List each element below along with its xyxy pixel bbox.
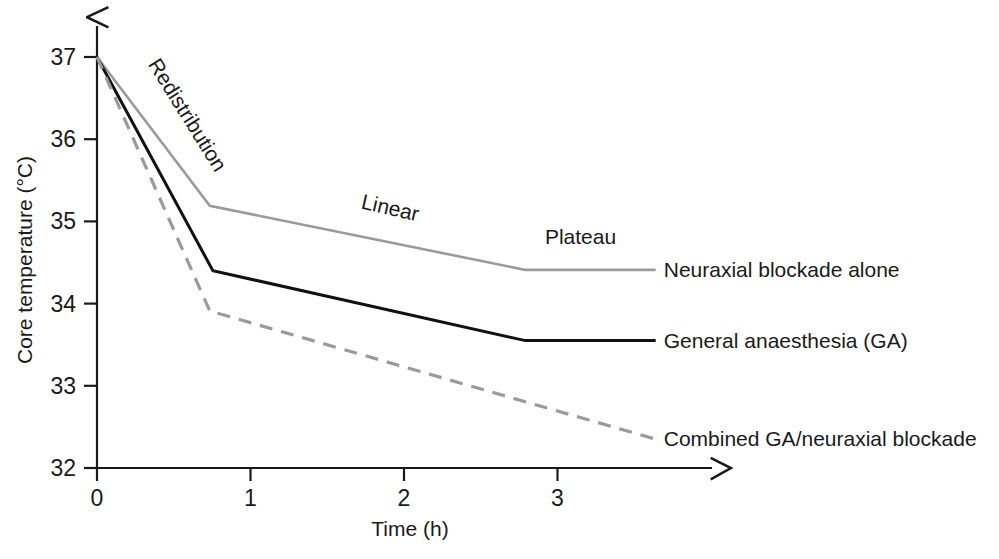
- y-tick-label-36: 36: [50, 126, 76, 152]
- y-tick-label-37: 37: [50, 44, 76, 70]
- y-tick-label-32: 32: [50, 455, 76, 481]
- series-label-neuraxial-blockade-alone: Neuraxial blockade alone: [664, 258, 900, 281]
- axes-group: [97, 26, 712, 468]
- y-tick-label-35: 35: [50, 208, 76, 234]
- annotation-plateau: Plateau: [545, 225, 616, 248]
- series-label-combined-ga-neuraxial-blockade: Combined GA/neuraxial blockade: [664, 427, 977, 450]
- x-axis-ticks: 0123: [91, 468, 564, 511]
- chart-annotations: RedistributionLinearPlateau: [144, 54, 616, 248]
- x-tick-label-3: 3: [551, 485, 564, 511]
- y-tick-label-34: 34: [50, 291, 76, 317]
- y-tick-label-33: 33: [50, 373, 76, 399]
- x-tick-label-2: 2: [398, 485, 411, 511]
- series-label-general-anaesthesia-ga: General anaesthesia (GA): [664, 329, 908, 352]
- annotation-linear: Linear: [359, 190, 421, 226]
- series-labels: Neuraxial blockade aloneGeneral anaesthe…: [664, 258, 977, 450]
- y-axis-title: Core temperature (°C): [13, 156, 36, 364]
- annotation-redistribution: Redistribution: [144, 54, 232, 175]
- figure-container: 323334353637 0123 RedistributionLinearPl…: [0, 0, 999, 559]
- x-axis-title: Time (h): [371, 517, 448, 540]
- y-axis-ticks: 323334353637: [50, 44, 97, 481]
- x-tick-label-0: 0: [91, 485, 104, 511]
- core-temperature-line-chart: 323334353637 0123 RedistributionLinearPl…: [0, 0, 999, 559]
- x-tick-label-1: 1: [244, 485, 257, 511]
